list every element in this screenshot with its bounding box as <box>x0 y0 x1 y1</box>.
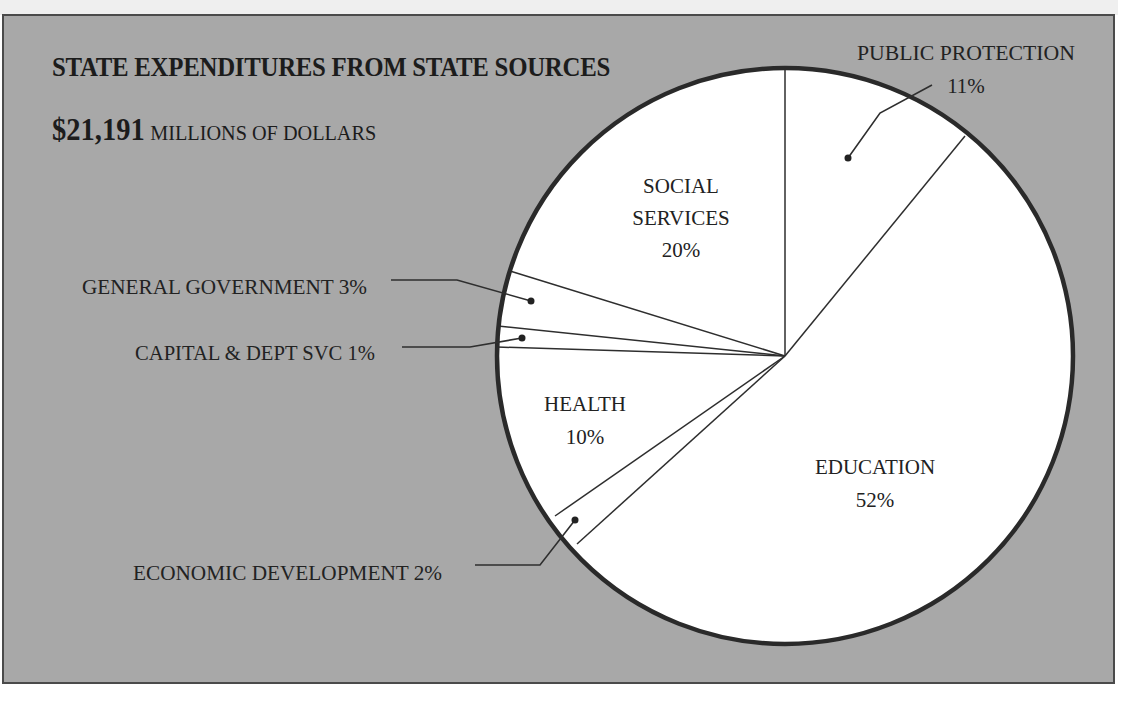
pie <box>497 68 1073 644</box>
label-general-government: GENERAL GOVERNMENT 3% <box>82 275 367 299</box>
label-education-pct: 52% <box>856 488 895 512</box>
label-social-services-1: SOCIAL <box>643 174 719 198</box>
label-social-services-pct: 20% <box>662 238 701 262</box>
label-health: HEALTH <box>544 392 626 416</box>
dot-public-protection <box>845 155 852 162</box>
label-economic-development: ECONOMIC DEVELOPMENT 2% <box>133 561 442 585</box>
dot-capital-dept-svc <box>519 335 526 342</box>
dot-general-government <box>528 298 535 305</box>
label-public-protection-pct: 11% <box>947 74 985 98</box>
label-education: EDUCATION <box>815 455 935 479</box>
label-public-protection: PUBLIC PROTECTION <box>857 41 1075 65</box>
dot-economic-development <box>572 517 579 524</box>
pie-chart: PUBLIC PROTECTION 11% SOCIAL SERVICES 20… <box>0 0 1135 703</box>
label-health-pct: 10% <box>566 425 605 449</box>
label-capital-dept-svc: CAPITAL & DEPT SVC 1% <box>135 341 375 365</box>
label-social-services-2: SERVICES <box>632 206 730 230</box>
